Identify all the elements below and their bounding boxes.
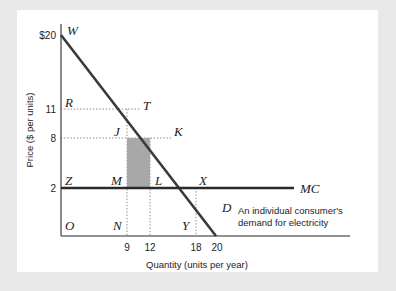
x-tick-label-18: 18 [190,242,202,253]
y-tick-label-20: $20 [39,30,56,41]
demand-curve [61,35,216,236]
x-tick-label-9: 9 [124,242,130,253]
point-label-M: M [110,173,123,188]
figure-panel: $20 11 8 2 9 12 18 20 W R T J K Z M L X … [17,10,378,272]
y-axis-title: Price ($ per units) [24,93,35,168]
point-label-Y: Y [182,218,191,233]
point-label-W: W [67,23,79,38]
marginal-cost-label: MC [299,181,320,196]
demand-description-line1: An individual consumer's [238,205,343,216]
figure-root: $20 11 8 2 9 12 18 20 W R T J K Z M L X … [0,0,396,291]
point-label-N: N [112,218,123,233]
demand-curve-label: D [221,200,232,215]
x-axis-title: Quantity (units per year) [146,259,248,270]
point-label-J: J [114,124,121,139]
y-tick-label-2: 2 [50,183,56,194]
y-tick-label-8: 8 [50,133,56,144]
demand-description-line2: demand for electricity [238,217,329,228]
point-label-L: L [154,173,162,188]
x-tick-label-12: 12 [144,242,156,253]
point-label-R: R [64,95,73,110]
economics-demand-chart: $20 11 8 2 9 12 18 20 W R T J K Z M L X … [17,10,378,272]
point-label-Z: Z [65,173,73,188]
point-label-T: T [143,98,151,113]
point-label-O: O [65,218,75,233]
y-tick-label-11: 11 [46,104,57,115]
point-label-X: X [198,173,208,188]
x-tick-label-20: 20 [211,242,223,253]
point-label-K: K [173,124,184,139]
